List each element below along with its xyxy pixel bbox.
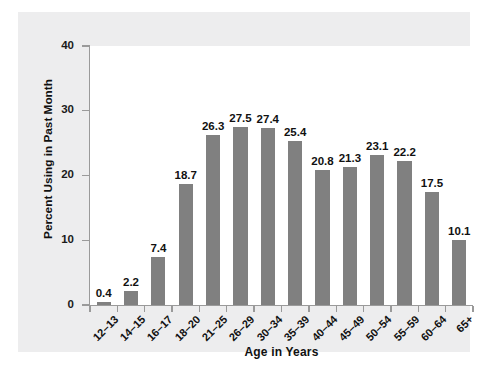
bar	[343, 167, 357, 305]
bar	[233, 127, 247, 305]
bar	[370, 155, 384, 305]
bar-value-label: 20.8	[309, 155, 336, 167]
x-axis-tick	[445, 306, 446, 312]
x-axis-tick	[199, 306, 200, 312]
bar	[179, 184, 193, 305]
bar-value-label: 26.3	[199, 120, 226, 132]
x-axis-tick	[281, 306, 282, 312]
x-axis-tick	[89, 306, 90, 312]
y-axis-tick	[82, 175, 89, 176]
y-axis-tick-label: 0	[28, 298, 74, 310]
x-axis-tick	[308, 306, 309, 312]
bar-value-label: 18.7	[172, 169, 199, 181]
bar	[452, 240, 466, 305]
x-axis-tick	[171, 306, 172, 312]
bar-value-label: 21.3	[336, 152, 363, 164]
x-axis-tick	[144, 306, 145, 312]
x-axis-tick	[226, 306, 227, 312]
bar	[315, 170, 329, 305]
bar	[261, 128, 275, 305]
bar-value-label: 23.1	[364, 140, 391, 152]
bar-value-label: 2.2	[117, 276, 144, 288]
bar-value-label: 7.4	[145, 242, 172, 254]
bar-value-label: 27.4	[254, 113, 281, 125]
bar-value-label: 25.4	[282, 126, 309, 138]
y-axis-tick	[82, 110, 89, 111]
chart-figure: 010203040 0.42.27.418.726.327.527.425.42…	[0, 0, 488, 371]
bar	[206, 135, 220, 305]
y-axis-tick	[82, 240, 89, 241]
y-axis-tick	[82, 304, 89, 305]
bar	[288, 141, 302, 305]
bar	[97, 302, 111, 305]
x-axis-tick	[390, 306, 391, 312]
bar-value-label: 10.1	[446, 225, 473, 237]
x-axis-tick	[363, 306, 364, 312]
bar-value-label: 17.5	[418, 177, 445, 189]
bar-value-label: 0.4	[90, 287, 117, 299]
bar	[151, 257, 165, 305]
bars-layer	[90, 46, 473, 305]
x-axis-tick	[336, 306, 337, 312]
x-axis-tick	[117, 306, 118, 312]
y-axis-tick-label: 40	[28, 39, 74, 51]
bar	[397, 161, 411, 305]
y-axis-tick	[82, 45, 89, 46]
x-axis-tick	[418, 306, 419, 312]
chart-panel: 010203040 0.42.27.418.726.327.527.425.42…	[18, 12, 470, 352]
y-axis-title: Percent Using in Past Month	[41, 59, 55, 259]
bar	[425, 192, 439, 305]
x-axis-tick	[253, 306, 254, 312]
bar	[124, 291, 138, 305]
x-axis-title: Age in Years	[90, 345, 473, 359]
bar-value-label: 22.2	[391, 146, 418, 158]
bar-value-label: 27.5	[227, 112, 254, 124]
x-axis-tick	[472, 306, 473, 312]
